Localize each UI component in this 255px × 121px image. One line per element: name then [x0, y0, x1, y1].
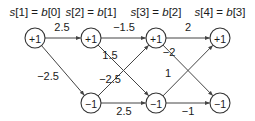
node-value: −1: [214, 98, 226, 110]
node-value: +1: [214, 33, 226, 45]
edge-label-1: −2.5: [37, 70, 59, 82]
edge-label-4: −2.5: [99, 73, 121, 85]
edge-label-8: 1: [165, 67, 171, 79]
trellis-diagram: s[1] = b[0]s[2] = b[1]s[3] = b[2]s[4] = …: [0, 0, 255, 121]
node-value: +1: [150, 33, 162, 45]
node-s2-minus: −1: [81, 93, 101, 113]
edge-label-9: −1: [182, 105, 195, 117]
node-value: −1: [85, 98, 97, 110]
edge-label-5: 2.5: [116, 105, 131, 117]
stage-header-s1: s[1] = b[0]: [10, 6, 61, 18]
node-value: −1: [150, 98, 162, 110]
header-b-index: [2]: [169, 6, 182, 18]
edge-label-7: −2: [163, 46, 176, 58]
node-s4-plus: +1: [210, 28, 230, 48]
header-b-index: [1]: [104, 6, 117, 18]
node-s4-minus: −1: [210, 93, 230, 113]
edges: [42, 38, 213, 103]
node-value: +1: [85, 33, 97, 45]
header-s-index: [1] =: [15, 6, 41, 18]
stage-header-s4: s[4] = b[3]: [195, 6, 246, 18]
node-s3-plus: +1: [146, 28, 166, 48]
header-b-index: [0]: [48, 6, 61, 18]
node-s3-minus: −1: [146, 93, 166, 113]
stage-header-s2: s[2] = b[1]: [66, 6, 117, 18]
node-s2-plus: +1: [81, 28, 101, 48]
stage-headers: s[1] = b[0]s[2] = b[1]s[3] = b[2]s[4] = …: [10, 6, 246, 18]
header-s-index: [4] =: [200, 6, 226, 18]
header-s-index: [2] =: [71, 6, 97, 18]
edge-label-3: 1.5: [102, 49, 117, 61]
edge-label-0: 2.5: [54, 21, 69, 33]
edge-label-6: 2: [185, 21, 191, 33]
stage-header-s3: s[3] = b[2]: [131, 6, 182, 18]
edge-label-2: −1.5: [113, 21, 135, 33]
node-value: +1: [29, 33, 41, 45]
header-b-index: [3]: [233, 6, 246, 18]
node-s1-plus: +1: [25, 28, 45, 48]
header-s-index: [3] =: [136, 6, 162, 18]
